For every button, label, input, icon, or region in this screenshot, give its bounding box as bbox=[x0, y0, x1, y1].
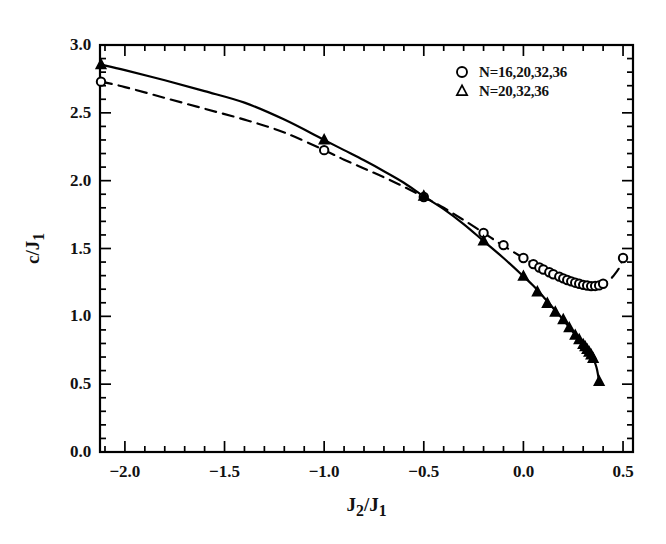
y-axis-title-text: c/J1 bbox=[22, 233, 43, 264]
y-tick-label: 0.5 bbox=[70, 374, 91, 394]
data-point-triangle bbox=[320, 135, 329, 144]
legend-marker-circle bbox=[457, 67, 467, 77]
x-axis-title: J2/J1 bbox=[347, 494, 387, 520]
data-point-triangle bbox=[543, 298, 552, 307]
plot-frame bbox=[100, 45, 633, 452]
y-tick-label: 3.0 bbox=[70, 35, 91, 55]
y-tick-label: 1.0 bbox=[70, 306, 91, 326]
data-point-triangle bbox=[551, 307, 560, 316]
data-point-circle bbox=[619, 254, 627, 262]
data-point-triangle bbox=[96, 60, 105, 69]
x-axis-title-text: J2/J1 bbox=[347, 494, 387, 515]
data-point-circle bbox=[519, 254, 527, 262]
y-tick-label: 0.0 bbox=[70, 442, 91, 462]
legend-label: N=16,20,32,36 bbox=[479, 64, 567, 81]
data-point-triangle bbox=[419, 191, 428, 200]
data-point-circle bbox=[320, 146, 328, 154]
data-point-circle bbox=[97, 77, 105, 85]
x-tick-label: −1.5 bbox=[209, 462, 240, 482]
x-tick-label: 0.0 bbox=[513, 462, 534, 482]
y-axis-title: c/J1 bbox=[22, 233, 48, 264]
data-point-circle bbox=[499, 241, 507, 249]
y-tick-label: 2.0 bbox=[70, 171, 91, 191]
series-line-1 bbox=[101, 65, 599, 382]
x-tick-label: −1.0 bbox=[309, 462, 340, 482]
data-point-triangle bbox=[595, 376, 604, 385]
figure-root: −2.0−1.5−1.0−0.50.00.50.00.51.01.52.02.5… bbox=[0, 0, 666, 544]
legend-marker-triangle bbox=[457, 85, 467, 95]
legend-label: N=20,32,36 bbox=[479, 83, 549, 100]
x-tick-label: −2.0 bbox=[109, 462, 140, 482]
y-tick-label: 1.5 bbox=[70, 239, 91, 259]
data-point-circle bbox=[599, 280, 607, 288]
series-line-0 bbox=[101, 82, 623, 286]
data-point-triangle bbox=[533, 287, 542, 296]
x-tick-label: −0.5 bbox=[408, 462, 439, 482]
x-tick-label: 0.5 bbox=[613, 462, 634, 482]
y-tick-label: 2.5 bbox=[70, 103, 91, 123]
